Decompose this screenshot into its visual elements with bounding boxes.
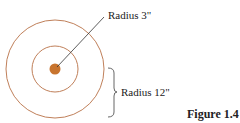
radius-brace	[108, 68, 117, 117]
figure-caption: Figure 1.4	[187, 107, 239, 122]
inner-radius-label: Radius 3"	[108, 9, 151, 21]
outer-radius-label: Radius 12"	[121, 86, 170, 98]
radius-pointer-line	[57, 17, 104, 67]
